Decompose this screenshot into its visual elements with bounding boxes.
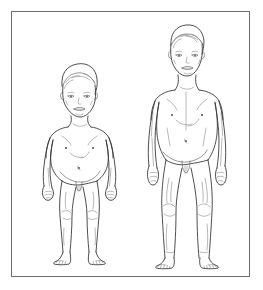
child-hair: [62, 64, 97, 94]
adolescent-neck: [175, 75, 199, 90]
adolescent-figure: [148, 25, 227, 269]
child-neck: [68, 116, 91, 127]
adolescent-hair: [171, 25, 204, 54]
child-torso: [46, 127, 113, 185]
adolescent-legs: [162, 160, 213, 258]
child-figure: [43, 64, 117, 265]
adolescent-torso: [151, 90, 223, 165]
adolescent-left-arm: [148, 101, 160, 185]
child-legs: [60, 181, 100, 252]
figure-panel: Comparative human growth illustration Li…: [0, 0, 263, 290]
child-chest-detail: [62, 136, 97, 170]
child-left-arm: [43, 138, 54, 200]
child-groin: [76, 182, 82, 191]
child-right-arm: [106, 138, 117, 200]
adolescent-feet: [156, 258, 219, 269]
anatomical-line-drawing: [0, 0, 263, 290]
adolescent-right-arm: [215, 101, 227, 185]
adolescent-groin: [182, 161, 190, 173]
child-feet: [54, 252, 106, 265]
adolescent-chest-detail: [167, 92, 207, 146]
